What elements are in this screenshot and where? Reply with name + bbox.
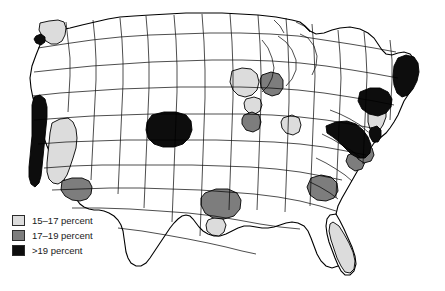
region-nw-wa-coast — [34, 34, 45, 45]
region-boston-eastern-ma — [393, 55, 419, 97]
map-legend: 15–17 percent 17–19 percent >19 percent — [12, 213, 132, 258]
legend-item-low: 15–17 percent — [12, 213, 132, 227]
choropleth-figure: 15–17 percent 17–19 percent >19 percent — [0, 0, 445, 291]
legend-label-low: 15–17 percent — [32, 215, 93, 226]
region-denver-front-range-co — [146, 112, 192, 147]
region-austin-tx — [206, 217, 226, 236]
region-dallas-fort-worth-tx — [201, 189, 241, 219]
legend-item-high: >19 percent — [12, 243, 132, 257]
legend-label-mid: 17–19 percent — [32, 230, 93, 241]
legend-swatch-low — [12, 215, 25, 226]
region-eastern-ia — [242, 112, 261, 132]
legend-label-high: >19 percent — [32, 245, 82, 256]
legend-item-mid: 17–19 percent — [12, 228, 132, 242]
legend-swatch-mid — [12, 230, 25, 241]
region-north-coastal-ca — [29, 95, 47, 187]
legend-swatch-high — [12, 245, 25, 256]
